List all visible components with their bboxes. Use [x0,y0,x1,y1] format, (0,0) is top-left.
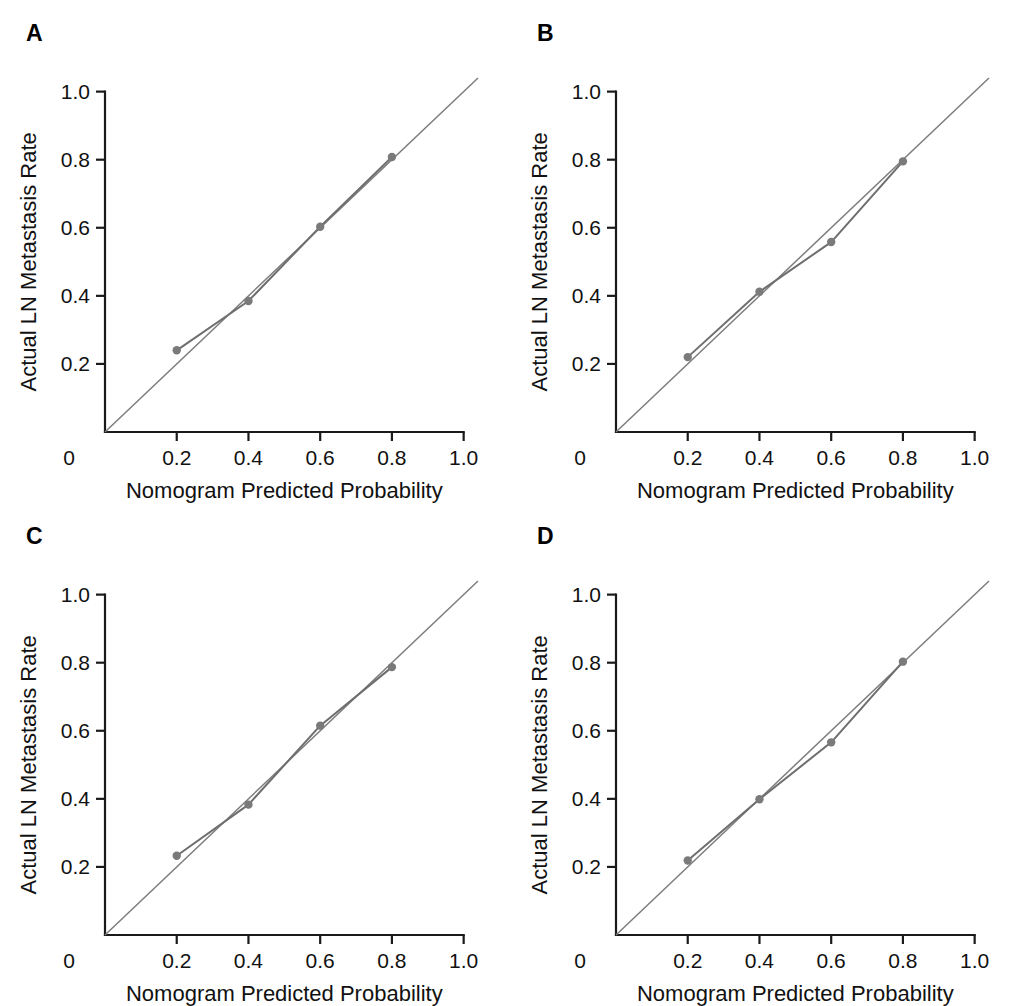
x-axis-tick-label: 0.4 [234,446,264,469]
apparent-calibration-line [177,667,392,856]
y-axis-tick-label: 0.4 [61,787,91,810]
y-axis-title: Actual LN Metastasis Rate [16,635,41,894]
y-axis-tick-label: 0.4 [61,284,91,307]
x-axis-tick-label: 0.8 [377,446,406,469]
data-point-marker [899,157,907,165]
apparent-calibration-line [688,662,903,861]
data-point-marker [684,353,692,361]
ideal-reference-line [616,581,989,935]
x-axis-tick-label: 0.2 [162,949,191,972]
x-axis-title: Nomogram Predicted Probability [637,981,954,1006]
panel-c: C 0.20.40.60.81.000.20.40.60.81.0Nomogra… [0,503,511,1006]
data-point-marker [755,288,763,296]
x-axis-tick-label: 0.6 [817,949,846,972]
y-axis-tick-label: 0.2 [572,855,601,878]
data-point-marker [316,223,324,231]
y-axis-tick-label: 0.2 [572,352,601,375]
x-axis-tick-label: 0.8 [377,949,406,972]
y-axis-tick-label: 0.6 [572,216,601,239]
ideal-reference-line [616,78,989,432]
y-axis-tick-label: 0.6 [61,216,90,239]
data-point-marker [388,153,396,161]
x-axis-tick-label: 0 [574,949,586,972]
x-axis-tick-label: 0.8 [888,446,917,469]
data-point-marker [684,856,692,864]
y-axis-tick-label: 0.8 [572,651,601,674]
y-axis-tick-label: 0.2 [61,855,90,878]
y-axis-tick-label: 0.4 [572,284,602,307]
x-axis-tick-label: 0.8 [888,949,917,972]
data-point-marker [388,663,396,671]
y-axis-tick-label: 0.8 [61,148,90,171]
data-point-marker [316,721,324,729]
y-axis-title: Actual LN Metastasis Rate [16,132,41,391]
data-point-marker [899,657,907,665]
x-axis-tick-label: 0.6 [817,446,846,469]
y-axis-tick-label: 0.8 [572,148,601,171]
plot-area-c: 0.20.40.60.81.000.20.40.60.81.0Nomogram … [0,503,511,1006]
x-axis-tick-label: 0 [63,949,75,972]
y-axis-tick-label: 0.4 [572,787,602,810]
y-axis-title: Actual LN Metastasis Rate [527,132,552,391]
data-point-marker [244,800,252,808]
x-axis-tick-label: 0.4 [234,949,264,972]
x-axis-tick-label: 0.6 [306,446,335,469]
plot-area-b: 0.20.40.60.81.000.20.40.60.81.0Nomogram … [511,0,1022,503]
y-axis-tick-label: 0.8 [61,651,90,674]
x-axis-title: Nomogram Predicted Probability [637,478,954,503]
data-point-marker [173,851,181,859]
x-axis-tick-label: 0 [63,446,75,469]
x-axis-tick-label: 0.4 [745,446,775,469]
y-axis-title: Actual LN Metastasis Rate [527,635,552,894]
x-axis-tick-label: 0.6 [306,949,335,972]
x-axis-title: Nomogram Predicted Probability [126,478,443,503]
x-axis-tick-label: 0.2 [162,446,191,469]
data-point-marker [827,738,835,746]
x-axis-tick-label: 1.0 [960,446,989,469]
data-point-marker [755,795,763,803]
y-axis-tick-label: 0.6 [572,719,601,742]
panel-a: A 0.20.40.60.81.000.20.40.60.81.0Nomogra… [0,0,511,503]
y-axis-tick-label: 1.0 [572,80,601,103]
apparent-calibration-line [177,157,392,350]
panel-b: B 0.20.40.60.81.000.20.40.60.81.0Nomogra… [511,0,1022,503]
plot-area-a: 0.20.40.60.81.000.20.40.60.81.0Nomogram … [0,0,511,503]
x-axis-tick-label: 0.2 [673,446,702,469]
y-axis-tick-label: 1.0 [61,80,90,103]
x-axis-tick-label: 0 [574,446,586,469]
x-axis-title: Nomogram Predicted Probability [126,981,443,1006]
data-point-marker [827,238,835,246]
plot-area-d: 0.20.40.60.81.000.20.40.60.81.0Nomogram … [511,503,1022,1006]
x-axis-tick-label: 0.4 [745,949,775,972]
data-point-marker [173,346,181,354]
data-point-marker [244,297,252,305]
x-axis-tick-label: 1.0 [449,949,478,972]
calibration-figure: A 0.20.40.60.81.000.20.40.60.81.0Nomogra… [0,0,1022,1006]
panel-d: D 0.20.40.60.81.000.20.40.60.81.0Nomogra… [511,503,1022,1006]
y-axis-tick-label: 1.0 [572,583,601,606]
x-axis-tick-label: 0.2 [673,949,702,972]
y-axis-tick-label: 1.0 [61,583,90,606]
x-axis-tick-label: 1.0 [449,446,478,469]
x-axis-tick-label: 1.0 [960,949,989,972]
y-axis-tick-label: 0.6 [61,719,90,742]
y-axis-tick-label: 0.2 [61,352,90,375]
